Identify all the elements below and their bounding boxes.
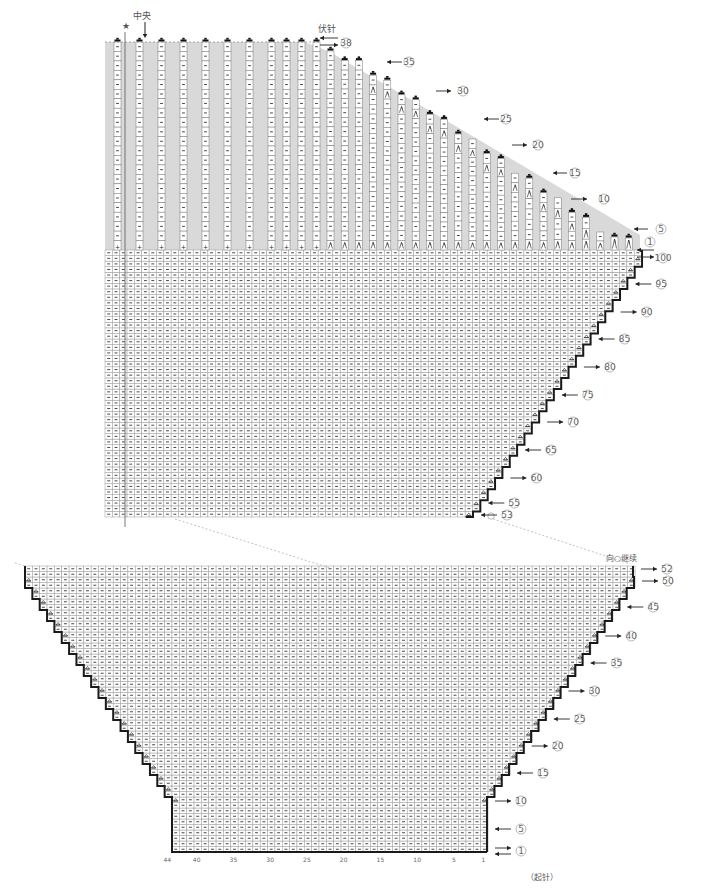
stitch-cell bbox=[634, 256, 641, 262]
arrow-head bbox=[507, 799, 511, 803]
stitch-cell bbox=[627, 267, 634, 273]
stitch-cell bbox=[517, 434, 524, 440]
bind-off-symbol bbox=[500, 154, 502, 156]
row-number-text: 5 bbox=[658, 224, 664, 234]
arrow-head bbox=[488, 501, 492, 505]
bind-off-symbol bbox=[116, 38, 118, 40]
bind-off-symbol bbox=[300, 38, 302, 40]
arrow-head bbox=[522, 476, 526, 480]
column-tick-label: 30 bbox=[266, 856, 274, 863]
arrow-head bbox=[507, 846, 511, 850]
knit-symbol: + bbox=[137, 243, 142, 250]
knit-symbol: + bbox=[181, 243, 186, 250]
stitch-cell bbox=[165, 786, 172, 792]
row-number-text: 15 bbox=[537, 768, 548, 778]
arrow-head bbox=[447, 89, 451, 93]
continue-from-label: 向○继续 bbox=[606, 553, 637, 563]
bind-off-symbol bbox=[413, 97, 419, 99]
row-number: 50 bbox=[662, 576, 674, 587]
center-label: 中央 bbox=[133, 10, 151, 21]
row-number: 90 bbox=[641, 307, 653, 318]
row-number-text: 35 bbox=[403, 57, 414, 67]
row-number-text: 75 bbox=[582, 390, 593, 400]
column-tick-label: 5 bbox=[452, 856, 456, 863]
arrow-head bbox=[599, 337, 603, 341]
stitch-cell bbox=[473, 500, 480, 506]
stitch-cell bbox=[76, 654, 83, 660]
arrow-head bbox=[617, 634, 621, 638]
column-tick-label: 35 bbox=[230, 856, 238, 863]
row-number-text: 100 bbox=[654, 253, 671, 263]
stitch-cell bbox=[480, 489, 487, 495]
bind-off-symbol bbox=[399, 92, 405, 94]
arrow-head bbox=[525, 448, 529, 452]
row-number: 40 bbox=[626, 631, 638, 642]
row-number-text: 5 bbox=[518, 824, 524, 834]
stitch-cell bbox=[561, 367, 568, 373]
arrow-head bbox=[495, 852, 499, 856]
stitch-cell bbox=[69, 643, 76, 649]
stitch-cell bbox=[509, 445, 516, 451]
bind-off-symbol bbox=[138, 38, 140, 40]
bind-off-symbol bbox=[344, 56, 346, 58]
row-number-text: 40 bbox=[626, 631, 638, 641]
arrow-head bbox=[635, 282, 639, 286]
knit-symbol: + bbox=[269, 243, 274, 250]
row-number: 85 bbox=[619, 334, 630, 345]
stitch-cell bbox=[40, 599, 47, 605]
bind-off-symbol bbox=[429, 110, 431, 112]
row-number-text: 1 bbox=[647, 237, 653, 247]
arrow-head bbox=[553, 171, 557, 175]
bind-off-symbol bbox=[159, 40, 165, 42]
bind-off-symbol bbox=[384, 78, 390, 80]
bind-off-symbol bbox=[628, 234, 630, 236]
bind-off-symbol bbox=[315, 38, 317, 40]
connector-dashed-line bbox=[175, 519, 330, 568]
bind-off-symbol bbox=[457, 130, 459, 132]
row-number: 20 bbox=[552, 741, 564, 752]
circle-marker bbox=[488, 513, 494, 519]
stitch-cell bbox=[597, 311, 604, 317]
bind-off-symbol bbox=[299, 40, 305, 42]
knit-symbol: + bbox=[284, 243, 289, 250]
row-number-text: 53 bbox=[501, 510, 512, 520]
knitting-chart: +++++++++++ 1100510152025303538959085807… bbox=[0, 0, 701, 893]
row-number: 53 bbox=[501, 510, 512, 521]
row-number: 30 bbox=[589, 686, 601, 697]
arrow-head bbox=[653, 567, 657, 571]
center-arrow-head bbox=[143, 34, 148, 38]
row-number-text: 95 bbox=[656, 279, 667, 289]
bind-off-symbol bbox=[626, 236, 632, 238]
row-number: 10 bbox=[515, 796, 527, 807]
bind-off-symbol bbox=[571, 208, 573, 210]
bind-off-symbol bbox=[541, 190, 547, 192]
row-number: 52 bbox=[661, 564, 672, 575]
bind-off-symbol bbox=[542, 189, 544, 191]
row-number-text: 80 bbox=[604, 362, 616, 372]
row-number-text: 25 bbox=[574, 714, 585, 724]
stitch-cell bbox=[143, 753, 150, 759]
stitch-cell bbox=[612, 289, 619, 295]
knit-symbol: + bbox=[115, 243, 120, 250]
row-number: 65 bbox=[545, 445, 556, 456]
row-number: 80 bbox=[604, 362, 616, 373]
bind-off-symbol bbox=[328, 49, 334, 51]
arrow-head bbox=[633, 310, 637, 314]
row-number: 15 bbox=[537, 768, 548, 779]
row-number: 45 bbox=[648, 602, 659, 613]
row-number: 10 bbox=[598, 194, 610, 205]
bind-off-symbol bbox=[225, 40, 231, 42]
row-number-text: 10 bbox=[598, 194, 610, 204]
stitch-cell bbox=[620, 278, 627, 284]
bind-off-label: 伏针 bbox=[318, 23, 336, 34]
arrow-head bbox=[596, 365, 600, 369]
stitch-cell bbox=[91, 676, 98, 682]
arrow-head bbox=[562, 393, 566, 397]
stitch-cell bbox=[128, 731, 135, 737]
bind-off-symbol bbox=[526, 176, 532, 178]
connector-dashed-line bbox=[15, 563, 25, 566]
arrow-head bbox=[559, 420, 563, 424]
arrow-head bbox=[320, 36, 324, 40]
row-number: 35 bbox=[611, 658, 622, 669]
row-number-text: 20 bbox=[532, 140, 544, 150]
